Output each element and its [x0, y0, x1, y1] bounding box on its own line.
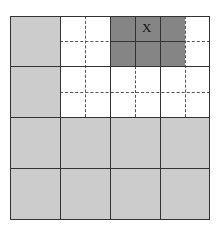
- grid-line: [10, 16, 11, 220]
- grid-line: [60, 16, 61, 220]
- cell-r2-c1: [10, 66, 60, 117]
- grid-line: [160, 16, 161, 220]
- cell-r1-c1: [10, 16, 60, 67]
- grid-line: [110, 41, 185, 42]
- dash-line: [60, 92, 210, 93]
- grid-line: [110, 16, 111, 220]
- x-marker: X: [142, 20, 151, 36]
- grid-line: [209, 16, 210, 220]
